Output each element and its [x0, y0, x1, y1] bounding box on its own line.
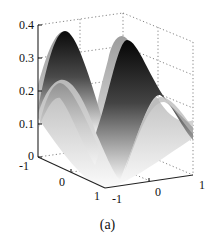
z-tick-0.3: 0.3 — [19, 51, 34, 65]
z-tick-0.1: 0.1 — [19, 117, 34, 131]
left-tick-1: 1 — [94, 189, 100, 203]
z-tick-0.4: 0.4 — [19, 18, 34, 32]
right-axis-labels: -1 0 1 — [112, 178, 205, 206]
right-tick-0: 0 — [155, 185, 161, 199]
left-tick-0: 0 — [59, 175, 65, 189]
z-axis-labels: 0.4 0.3 0.2 0.1 0 — [19, 18, 34, 163]
figure-caption: (a) — [0, 217, 215, 233]
surface-plot: 0.4 0.3 0.2 0.1 0 -1 0 1 -1 0 1 — [0, 0, 215, 242]
left-tick-neg1: -1 — [19, 159, 29, 173]
right-tick-1: 1 — [199, 178, 205, 192]
right-tick-neg1: -1 — [112, 192, 122, 206]
surface — [38, 31, 193, 188]
z-tick-0.2: 0.2 — [19, 84, 34, 98]
